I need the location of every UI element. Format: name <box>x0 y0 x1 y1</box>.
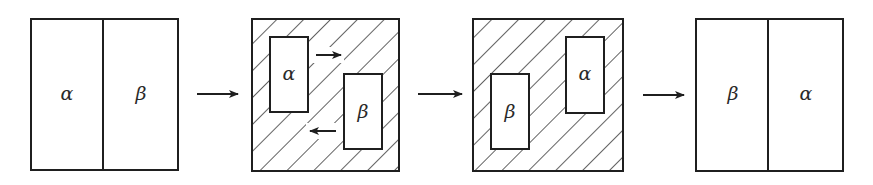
alpha-label: α <box>579 62 592 84</box>
beta-label: β <box>504 100 516 122</box>
stage-4-box: β α <box>696 19 843 171</box>
stage-2-box: α β <box>252 19 399 171</box>
stage-3-box: β α <box>473 19 623 171</box>
alpha-label: α <box>61 82 74 104</box>
phase-exchange-diagram: α β α β β α β α <box>0 0 873 185</box>
beta-label: β <box>135 82 147 104</box>
beta-label: β <box>357 100 369 122</box>
alpha-label: α <box>283 62 296 84</box>
alpha-label: α <box>800 82 813 104</box>
stage-1-box: α β <box>31 19 178 170</box>
beta-label: β <box>727 82 739 104</box>
